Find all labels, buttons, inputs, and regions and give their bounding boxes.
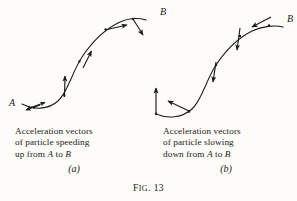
path-point-a3 xyxy=(78,60,80,62)
figure-caption-dot: . xyxy=(148,182,151,193)
caption-a-line3-point-b: B xyxy=(65,149,71,159)
caption-a-line2: of particle speeding xyxy=(15,137,93,148)
panel-label-a: (a) xyxy=(0,163,148,174)
accel-vector-a4 xyxy=(105,25,127,30)
caption-a-line3: up from A to B xyxy=(15,149,93,160)
panel-a: A Acceleration vectors of particle speed… xyxy=(0,0,148,201)
diagram-a-speeding-up: A xyxy=(0,0,148,125)
point-label-a-start: A xyxy=(8,97,16,108)
accel-vector-a1b xyxy=(26,105,40,110)
caption-a-line1: Acceleration vectors xyxy=(15,126,93,137)
caption-b-line3: down from A to B xyxy=(163,149,241,160)
point-label-b-end: B xyxy=(287,13,293,24)
accel-vector-a2 xyxy=(65,76,66,97)
panel-b: A Acceleration vectors of particle slowi… xyxy=(149,0,297,201)
caption-b-line3-pre: down from xyxy=(163,149,207,159)
figure-13: A Acceleration vectors of particle speed… xyxy=(0,0,297,201)
point-label-b-start: A xyxy=(149,108,150,119)
point-label-a-end: B xyxy=(160,6,166,17)
path-point-b5 xyxy=(268,24,270,26)
figure-number: 13 xyxy=(154,182,164,193)
accel-vector-b2 xyxy=(168,101,189,111)
panel-label-b: (b) xyxy=(152,163,297,174)
caption-b: Acceleration vectors of particle slowing… xyxy=(163,126,241,160)
caption-a: Acceleration vectors of particle speedin… xyxy=(15,126,93,160)
caption-b-line2: of particle slowing xyxy=(163,137,241,148)
caption-b-line3-point-b: B xyxy=(225,149,231,159)
accel-vector-a5 xyxy=(133,19,143,35)
particle-path-b xyxy=(156,26,283,117)
caption-b-line1: Acceleration vectors xyxy=(163,126,241,137)
accel-vector-b3 xyxy=(213,62,216,82)
figure-caption-ig: IG xyxy=(139,184,148,193)
caption-b-line3-mid: to xyxy=(213,149,225,159)
particle-path-a xyxy=(22,19,146,108)
caption-a-line3-pre: up from xyxy=(15,149,47,159)
caption-a-line3-mid: to xyxy=(53,149,65,159)
diagram-b-slowing-down: A xyxy=(149,0,297,125)
figure-caption: FIG. 13 xyxy=(0,182,297,193)
